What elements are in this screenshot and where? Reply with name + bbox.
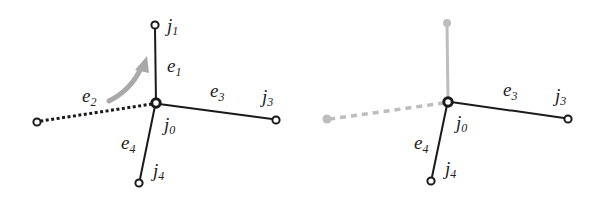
- label-e3: e3: [503, 79, 517, 103]
- edge-e1-faded: [447, 24, 448, 100]
- left-panel: j1 e1 e2 e3 j3 j0 e4 j4: [33, 15, 279, 187]
- label-e3: e3: [210, 80, 224, 104]
- label-e2: e2: [82, 85, 96, 109]
- label-e1: e1: [167, 55, 181, 79]
- edge-e3: [159, 104, 272, 119]
- node-j4: [427, 177, 434, 184]
- label-j4: j4: [442, 158, 456, 181]
- node-j3: [272, 116, 279, 123]
- label-e4: e4: [121, 132, 135, 156]
- label-j4: j4: [150, 160, 164, 183]
- node-j1: [151, 21, 158, 28]
- junction-diagram: j1 e1 e2 e3 j3 j0 e4 j4 e3 j3 j0 e4 j4: [0, 0, 606, 199]
- node-j0: [444, 98, 452, 106]
- node-j1-faded: [443, 19, 451, 27]
- edge-e2: [41, 104, 152, 121]
- label-j1: j1: [164, 15, 178, 38]
- label-e4: e4: [414, 132, 428, 156]
- node-j4: [135, 179, 142, 186]
- node-j3: [564, 115, 571, 122]
- label-j0: j0: [453, 112, 467, 135]
- node-e2-end-faded: [323, 115, 332, 124]
- label-j0: j0: [161, 114, 175, 137]
- node-e2-end: [33, 118, 40, 125]
- label-j3: j3: [552, 85, 566, 108]
- edge-e3: [451, 102, 564, 118]
- edge-e1: [155, 28, 156, 103]
- node-j0: [152, 99, 160, 107]
- rotation-arrow-icon: [109, 56, 149, 101]
- edge-e2-faded: [330, 103, 444, 119]
- right-panel: e3 j3 j0 e4 j4: [323, 19, 572, 185]
- label-j3: j3: [259, 86, 273, 109]
